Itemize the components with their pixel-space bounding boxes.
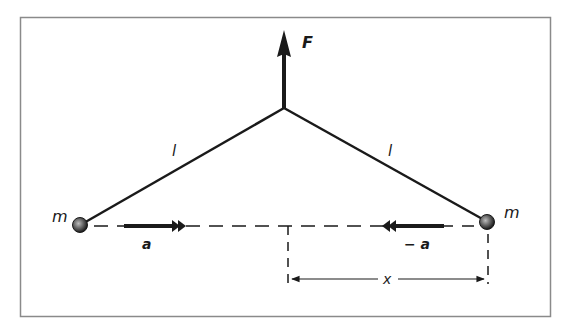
diagram-figure: F l l m m a − a	[0, 0, 563, 323]
accel-arrow-left	[124, 220, 186, 232]
accel-right-label: − a	[404, 236, 430, 252]
force-label: F	[302, 33, 313, 52]
mass-left	[73, 218, 88, 233]
rod-right	[284, 108, 486, 221]
mass-right-label: m	[504, 203, 520, 222]
distance-label: x	[382, 271, 392, 287]
mass-right	[480, 215, 495, 230]
rod-left-label: l	[172, 142, 177, 160]
mass-left-label: m	[52, 207, 68, 226]
rod-right-label: l	[388, 142, 393, 160]
rod-left	[82, 108, 284, 224]
accel-left-label: a	[142, 236, 151, 252]
accel-arrow-right	[382, 220, 444, 232]
force-arrow	[277, 30, 291, 108]
diagram-canvas: F l l m m a − a	[0, 0, 563, 323]
